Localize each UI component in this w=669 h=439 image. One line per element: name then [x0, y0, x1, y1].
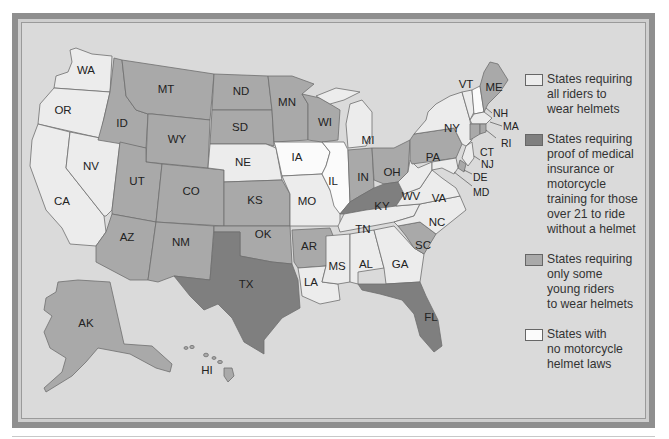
legend-item-all-riders: States requiringall riders towear helmet…: [525, 72, 655, 117]
legend-swatch-no-law: [525, 329, 543, 341]
state-mn[interactable]: [268, 76, 314, 142]
state-ri[interactable]: [480, 124, 486, 134]
label-oh: OH: [383, 166, 400, 178]
legend-label-young-riders: States requiringonly someyoung ridersto …: [547, 252, 655, 312]
label-ia: IA: [292, 151, 303, 163]
label-ct: CT: [480, 146, 495, 158]
label-ne: NE: [235, 156, 251, 168]
legend-item-proof-medical: States requiringproof of medicalinsuranc…: [525, 132, 655, 237]
state-ak[interactable]: [44, 280, 172, 392]
label-mn: MN: [278, 96, 296, 108]
label-in: IN: [357, 171, 369, 183]
label-wa: WA: [77, 64, 95, 76]
label-ca: CA: [54, 195, 70, 207]
label-mt: MT: [158, 83, 175, 95]
label-wi: WI: [318, 116, 332, 128]
label-la: LA: [304, 276, 318, 288]
label-ak: AK: [78, 317, 94, 329]
label-nj: NJ: [481, 158, 494, 170]
state-nm[interactable]: [148, 222, 214, 282]
legend-label-proof-medical: States requiringproof of medicalinsuranc…: [547, 132, 655, 237]
label-ks: KS: [247, 194, 263, 206]
leader-de: [464, 170, 472, 174]
leader-nh: [486, 108, 492, 113]
label-il: IL: [328, 175, 338, 187]
label-sc: SC: [415, 239, 431, 251]
label-sd: SD: [232, 121, 248, 133]
state-ct[interactable]: [470, 124, 480, 140]
label-nh: NH: [493, 107, 508, 119]
leader-md: [454, 172, 472, 186]
label-or: OR: [54, 104, 71, 116]
legend-item-no-law: States withno motorcyclehelmet laws: [525, 327, 655, 372]
label-hi: HI: [201, 364, 213, 376]
map-legend: States requiringall riders towear helmet…: [525, 72, 655, 387]
label-ri: RI: [501, 137, 512, 149]
label-nm: NM: [172, 236, 190, 248]
label-ut: UT: [129, 175, 144, 187]
legend-swatch-proof-medical: [525, 134, 543, 146]
label-nv: NV: [83, 160, 99, 172]
label-id: ID: [116, 117, 128, 129]
label-wy: WY: [168, 133, 187, 145]
label-vt: VT: [459, 78, 474, 90]
label-az: AZ: [120, 231, 135, 243]
label-pa: PA: [426, 151, 441, 163]
label-ok: OK: [255, 228, 272, 240]
label-tx: TX: [239, 278, 254, 290]
legend-item-young-riders: States requiringonly someyoung ridersto …: [525, 252, 655, 312]
label-ky: KY: [374, 200, 390, 212]
leader-ma: [490, 122, 502, 126]
label-de: DE: [473, 171, 488, 183]
label-ms: MS: [328, 260, 346, 272]
label-ny: NY: [444, 122, 460, 134]
legend-label-all-riders: States requiringall riders towear helmet…: [547, 72, 655, 117]
label-al: AL: [359, 258, 374, 270]
legend-swatch-all-riders: [525, 74, 543, 86]
legend-swatch-young-riders: [525, 254, 543, 266]
label-nc: NC: [429, 216, 446, 228]
label-fl: FL: [424, 311, 438, 323]
label-md: MD: [473, 186, 490, 198]
label-wv: WV: [402, 190, 421, 202]
label-ga: GA: [392, 258, 409, 270]
label-me: ME: [485, 81, 503, 93]
label-ar: AR: [301, 240, 317, 252]
leader-ri: [486, 130, 496, 138]
legend-label-no-law: States withno motorcyclehelmet laws: [547, 327, 655, 372]
label-tn: TN: [355, 223, 370, 235]
label-mi: MI: [362, 134, 375, 146]
label-nd: ND: [233, 85, 250, 97]
label-co: CO: [182, 185, 199, 197]
label-ma: MA: [503, 120, 519, 132]
state-ms[interactable]: [322, 234, 350, 284]
label-va: VA: [432, 192, 447, 204]
label-mo: MO: [298, 195, 317, 207]
